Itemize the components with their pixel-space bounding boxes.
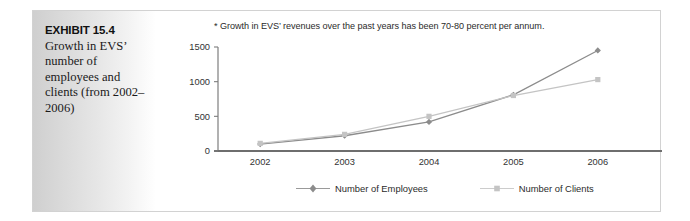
svg-text:1500: 1500 — [189, 42, 210, 52]
svg-text:2003: 2003 — [334, 157, 355, 167]
legend-label-employees: Number of Employees — [335, 183, 428, 194]
svg-text:500: 500 — [194, 112, 210, 122]
legend-marker-diamond-icon — [296, 183, 330, 194]
chart-area: * Growth in EVS’ revenues over the past … — [156, 11, 660, 211]
chart-footnote: * Growth in EVS’ revenues over the past … — [214, 21, 544, 31]
svg-text:2004: 2004 — [419, 157, 440, 167]
exhibit-frame: EXHIBIT 15.4 Growth in EVS’ number of em… — [32, 10, 661, 212]
chart-legend: Number of Employees Number of Clients — [296, 183, 594, 194]
legend-item-employees: Number of Employees — [296, 183, 428, 194]
svg-text:1000: 1000 — [189, 77, 210, 87]
legend-marker-square-icon — [480, 183, 514, 194]
line-chart-svg: 05001000150020022003200420052006 — [156, 37, 662, 177]
exhibit-caption-panel: EXHIBIT 15.4 Growth in EVS’ number of em… — [33, 11, 156, 211]
legend-label-clients: Number of Clients — [519, 183, 594, 194]
svg-text:0: 0 — [205, 146, 210, 156]
svg-text:2002: 2002 — [250, 157, 271, 167]
legend-item-clients: Number of Clients — [480, 183, 594, 194]
exhibit-caption-text: Growth in EVS’ number of employees and c… — [45, 39, 145, 116]
exhibit-number: EXHIBIT 15.4 — [45, 23, 146, 37]
plot-region: 05001000150020022003200420052006 — [156, 37, 662, 177]
svg-text:2005: 2005 — [503, 157, 524, 167]
svg-text:2006: 2006 — [587, 157, 608, 167]
exhibit-page: EXHIBIT 15.4 Growth in EVS’ number of em… — [0, 0, 690, 221]
